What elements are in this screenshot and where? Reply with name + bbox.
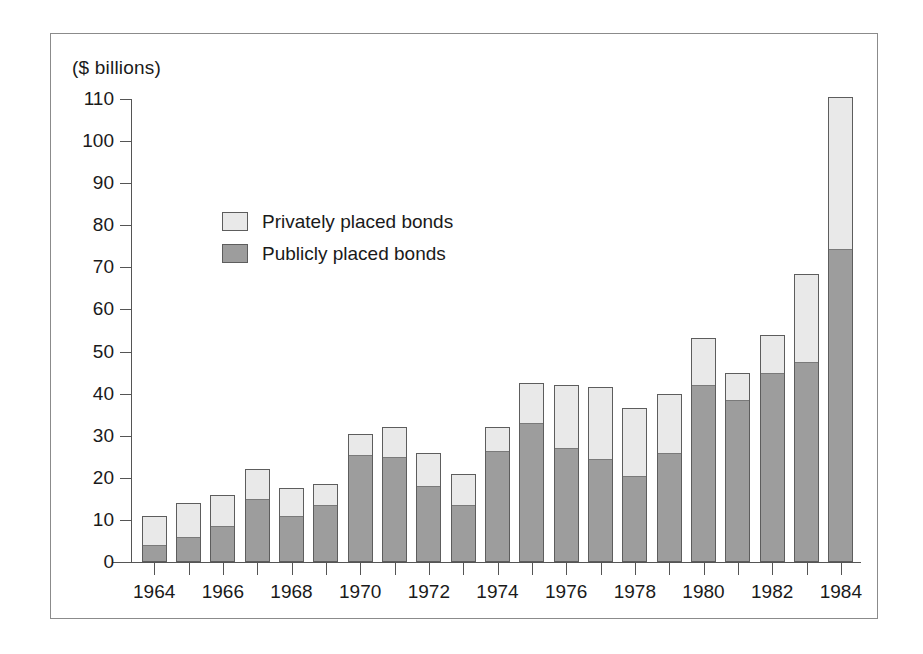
bar-segment-public <box>692 386 715 561</box>
bar-segment-divider <box>795 362 818 363</box>
bar-segment-divider <box>314 505 337 506</box>
y-axis-tick <box>120 99 131 100</box>
x-axis-line <box>113 562 861 563</box>
bar-segment-public <box>143 546 166 561</box>
legend-item-public: Publicly placed bonds <box>222 237 453 269</box>
bar-1982 <box>760 335 785 562</box>
x-axis-tick-label: 1980 <box>669 581 739 602</box>
x-axis-tick <box>395 563 396 575</box>
bar-1975 <box>519 383 544 562</box>
bar-segment-public <box>383 458 406 561</box>
x-axis-tick <box>326 563 327 575</box>
bar-segment-public <box>520 424 543 561</box>
y-axis-tick-label: 20 <box>66 468 114 487</box>
legend-item-private: Privately placed bonds <box>222 205 453 237</box>
bar-segment-public <box>555 449 578 561</box>
y-axis-tick <box>120 394 131 395</box>
bar-1984 <box>828 97 853 562</box>
legend-item-label: Privately placed bonds <box>262 212 453 231</box>
bar-1971 <box>382 427 407 562</box>
bar-segment-divider <box>658 453 681 454</box>
bar-segment-public <box>314 506 337 561</box>
bar-1965 <box>176 503 201 562</box>
y-axis-line <box>131 99 132 563</box>
x-axis-tick <box>772 563 773 575</box>
bar-segment-divider <box>761 373 784 374</box>
bar-1981 <box>725 373 750 562</box>
bar-segment-public <box>761 374 784 561</box>
y-axis-tick <box>120 520 131 521</box>
x-axis-tick-label: 1972 <box>394 581 464 602</box>
y-axis-tick-label: 60 <box>66 299 114 318</box>
y-axis-tick <box>120 436 131 437</box>
bar-segment-public <box>417 487 440 561</box>
bar-segment-public <box>726 401 749 561</box>
bar-1976 <box>554 385 579 562</box>
bar-segment-divider <box>589 459 612 460</box>
bar-segment-public <box>829 250 852 561</box>
bar-1972 <box>416 453 441 562</box>
bar-segment-public <box>623 477 646 561</box>
x-axis-tick <box>841 563 842 575</box>
y-axis-tick <box>120 352 131 353</box>
x-axis-tick-label: 1976 <box>531 581 601 602</box>
y-axis-tick <box>120 225 131 226</box>
bar-segment-divider <box>623 476 646 477</box>
y-axis-tick-label: 50 <box>66 342 114 361</box>
bar-segment-divider <box>829 249 852 250</box>
bar-1967 <box>245 469 270 562</box>
bar-segment-public <box>211 527 234 561</box>
y-axis-tick <box>120 183 131 184</box>
bar-segment-divider <box>726 400 749 401</box>
bar-segment-divider <box>211 526 234 527</box>
bar-1974 <box>485 427 510 562</box>
bar-segment-divider <box>417 486 440 487</box>
x-axis-tick <box>807 563 808 575</box>
x-axis-tick <box>601 563 602 575</box>
x-axis-tick <box>635 563 636 575</box>
y-axis-tick-label: 100 <box>66 131 114 150</box>
x-axis-tick-label: 1982 <box>737 581 807 602</box>
y-axis-tick <box>120 267 131 268</box>
x-axis-tick-label: 1974 <box>463 581 533 602</box>
bar-1970 <box>348 434 373 562</box>
legend-item-label: Publicly placed bonds <box>262 244 446 263</box>
y-axis-tick-label: 110 <box>66 89 114 108</box>
bar-1964 <box>142 516 167 562</box>
x-axis-tick <box>704 563 705 575</box>
bar-1980 <box>691 338 716 562</box>
x-axis-tick <box>154 563 155 575</box>
bar-1968 <box>279 488 304 562</box>
x-axis-tick-label: 1970 <box>325 581 395 602</box>
x-axis-tick-label: 1964 <box>119 581 189 602</box>
bar-segment-public <box>246 500 269 561</box>
bar-1979 <box>657 394 682 562</box>
legend: Privately placed bonds Publicly placed b… <box>222 205 453 269</box>
x-axis-tick <box>566 563 567 575</box>
x-axis-tick <box>738 563 739 575</box>
x-axis-tick <box>463 563 464 575</box>
x-axis-tick <box>189 563 190 575</box>
x-axis-tick-label: 1968 <box>257 581 327 602</box>
bar-segment-public <box>177 538 200 561</box>
x-axis-tick <box>360 563 361 575</box>
y-axis-tick-label: 40 <box>66 384 114 403</box>
bar-segment-public <box>589 460 612 561</box>
bar-segment-public <box>658 454 681 561</box>
bar-1969 <box>313 484 338 562</box>
chart-page: ($ billions) 1101009080706050403020100 1… <box>0 0 923 654</box>
bar-segment-divider <box>143 545 166 546</box>
x-axis-tick <box>257 563 258 575</box>
y-axis-tick <box>120 141 131 142</box>
x-axis-tick <box>223 563 224 575</box>
bar-1978 <box>622 408 647 562</box>
bar-segment-divider <box>692 385 715 386</box>
y-axis-tick <box>120 562 131 563</box>
y-axis-tick-label: 0 <box>66 552 114 571</box>
y-axis-tick-label: 10 <box>66 510 114 529</box>
x-axis-tick <box>498 563 499 575</box>
y-axis-tick-label: 80 <box>66 215 114 234</box>
light-gray-swatch-icon <box>222 212 248 231</box>
x-axis-tick <box>669 563 670 575</box>
y-axis-tick <box>120 309 131 310</box>
